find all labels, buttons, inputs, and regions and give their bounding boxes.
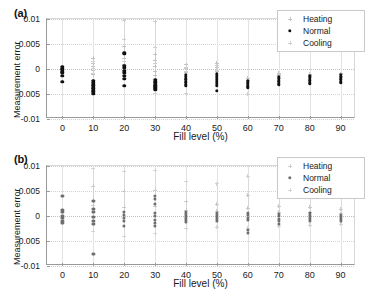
x-tick-mark [217,116,218,119]
data-point-normal [339,81,342,84]
panel-b-y-tick-label: 0.005 [6,186,40,196]
data-point-normal [123,52,126,55]
y-tick-mark [47,94,50,95]
x-tick-mark [186,263,187,266]
x-tick-mark [341,263,342,266]
data-point-normal [154,224,157,227]
panel-a-y-tick-label: 0 [6,64,40,74]
gridline-horizontal [47,266,354,267]
x-tick-mark [310,116,311,119]
legend-item-normal[interactable]: Normal [281,172,361,184]
x-tick-mark [279,116,280,119]
panel-b-legend: HeatingNormalCooling [277,157,365,199]
y-tick-mark [47,166,50,167]
legend-item-cooling[interactable]: Cooling [281,184,361,196]
legend-marker-cooling-icon [281,38,299,48]
x-tick-mark [155,263,156,266]
data-point-normal [246,231,249,234]
data-point-cooling [153,61,157,65]
legend-label: Cooling [299,185,332,195]
data-point-heating [153,52,157,56]
panel-b-x-axis-title: Fill level (%) [46,278,355,289]
legend-label: Normal [299,26,330,36]
x-tick-mark [341,116,342,119]
data-point-normal [92,252,95,255]
data-point-cooling [91,229,95,233]
data-point-cooling [122,18,126,22]
gridline-vertical [248,19,249,117]
data-point-heating [277,204,281,208]
panel-a-y-axis-title: Measurement error [12,41,22,118]
y-tick-mark [47,19,50,20]
data-point-cooling [153,45,157,49]
legend-item-heating[interactable]: Heating [281,160,361,172]
x-tick-mark [186,116,187,119]
data-point-normal [215,219,218,222]
data-point-cooling [122,234,126,238]
data-point-cooling [246,174,250,178]
legend-label: Heating [299,161,332,171]
data-point-normal [61,74,64,77]
data-point-normal [61,80,64,83]
x-tick-mark [93,116,94,119]
x-tick-mark [62,116,63,119]
x-tick-mark [217,263,218,266]
data-point-cooling [153,168,157,172]
data-point-heating [339,207,343,211]
gridline-horizontal [47,119,354,120]
x-tick-mark [93,263,94,266]
data-point-normal [92,222,95,225]
data-point-normal [61,221,64,224]
panel-b-y-axis-title: Measurement error [12,188,22,265]
data-point-heating [215,202,219,206]
data-point-heating [122,205,126,209]
x-tick-mark [155,116,156,119]
y-tick-mark [47,241,50,242]
panel-a-x-axis-title: Fill level (%) [46,131,355,142]
data-point-cooling [153,232,157,236]
data-point-cooling [308,223,312,227]
data-point-heating [91,184,95,188]
data-point-normal [92,199,95,202]
data-point-normal [184,84,187,87]
panel-b-y-tick-label: 0 [6,211,40,221]
y-tick-mark [47,266,50,267]
data-point-cooling [184,92,188,96]
data-point-cooling [215,225,219,229]
legend-marker-heating-icon [281,161,299,171]
legend-item-heating[interactable]: Heating [281,13,361,25]
legend-label: Cooling [299,38,332,48]
data-point-cooling [153,20,157,24]
legend-marker-normal-icon [281,26,299,36]
legend-marker-heating-icon [281,14,299,24]
panel-a-y-tick-label: -0.01 [6,114,40,124]
data-point-heating [246,206,250,210]
y-tick-mark [47,44,50,45]
data-point-normal [123,219,126,222]
x-tick-mark [124,116,125,119]
x-tick-mark [62,263,63,266]
legend-item-normal[interactable]: Normal [281,25,361,37]
data-point-normal [123,77,126,80]
data-point-cooling [184,227,188,231]
x-tick-mark [279,263,280,266]
data-point-cooling [91,71,95,75]
data-point-heating [153,188,157,192]
data-point-heating [153,73,157,77]
data-point-normal [123,84,126,87]
data-point-normal [308,82,311,85]
y-tick-mark [47,69,50,70]
data-point-normal [246,218,249,221]
data-point-cooling [153,92,157,96]
data-point-cooling [122,59,126,63]
data-point-normal [184,220,187,223]
panel-b-y-tick-label: 0.01 [6,161,40,171]
x-tick-mark [248,263,249,266]
data-point-normal [61,194,64,197]
data-point-cooling [122,169,126,173]
data-point-normal [308,219,311,222]
legend-item-cooling[interactable]: Cooling [281,37,361,49]
panel-a: (a) Measurement error 0.010.0050-0.005-0… [0,0,367,149]
figure-scatter-measurement-error: (a) Measurement error 0.010.0050-0.005-0… [0,0,367,298]
data-point-heating [184,199,188,203]
